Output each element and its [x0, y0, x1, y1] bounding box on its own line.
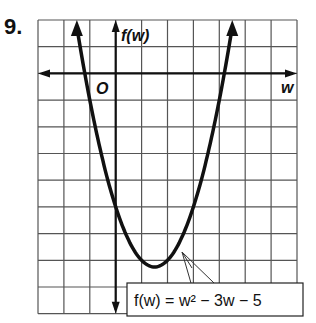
equation-label: f(w) = w² − 3w − 5 — [134, 292, 262, 309]
grid — [38, 20, 297, 314]
parabola-curve — [78, 35, 231, 267]
curve-arrows — [71, 20, 238, 36]
origin-label: O — [96, 80, 109, 97]
x-axis-label: w — [281, 79, 295, 96]
graph: f(w) = w² − 3w − 5 f(w) w O — [0, 0, 316, 323]
y-axis-label: f(w) — [121, 27, 149, 44]
